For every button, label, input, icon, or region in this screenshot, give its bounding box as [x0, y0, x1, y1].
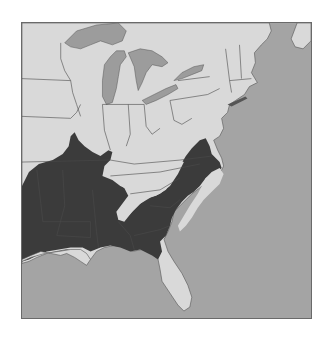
- map-frame: [21, 22, 312, 319]
- range-map: [22, 23, 311, 318]
